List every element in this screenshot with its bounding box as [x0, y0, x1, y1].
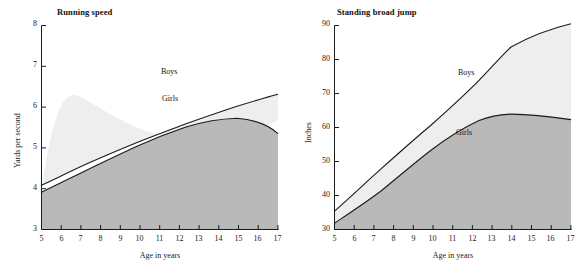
x-tick-standing-broad-jump-11: 16	[542, 234, 559, 243]
y-ticks-standing-broad-jump	[335, 26, 340, 230]
y-tick-running-speed-0: 3	[23, 224, 37, 233]
cut-off-caption	[0, 265, 586, 269]
x-tick-running-speed-1: 6	[53, 234, 70, 243]
y-tick-standing-broad-jump-4: 70	[309, 88, 330, 97]
x-tick-running-speed-3: 8	[92, 234, 109, 243]
chart-panel-running-speed: Running speed Yards per second Age in ye…	[0, 0, 293, 269]
y-tick-running-speed-3: 6	[23, 101, 37, 110]
series-label-boys-standing-broad-jump: Boys	[458, 68, 474, 77]
figure-two-charts: Running speed Yards per second Age in ye…	[0, 0, 586, 269]
x-tick-running-speed-6: 11	[151, 234, 168, 243]
y-tick-standing-broad-jump-2: 50	[309, 156, 330, 165]
y-tick-standing-broad-jump-5: 80	[309, 54, 330, 63]
series-label-girls-running-speed: Girls	[162, 94, 178, 103]
x-tick-running-speed-12: 17	[269, 234, 286, 243]
x-tick-running-speed-9: 14	[210, 234, 227, 243]
x-tick-running-speed-2: 7	[72, 234, 89, 243]
y-tick-standing-broad-jump-3: 60	[309, 122, 330, 131]
x-tick-running-speed-4: 9	[112, 234, 129, 243]
y-tick-running-speed-1: 4	[23, 183, 37, 192]
series-label-girls-standing-broad-jump: Girls	[456, 128, 472, 137]
x-tick-standing-broad-jump-8: 13	[483, 234, 500, 243]
x-tick-standing-broad-jump-1: 6	[346, 234, 363, 243]
x-tick-standing-broad-jump-0: 5	[326, 234, 343, 243]
x-tick-running-speed-0: 5	[33, 234, 50, 243]
x-tick-standing-broad-jump-5: 10	[424, 234, 441, 243]
x-tick-standing-broad-jump-9: 14	[503, 234, 520, 243]
x-tick-running-speed-5: 10	[131, 234, 148, 243]
x-tick-standing-broad-jump-7: 12	[464, 234, 481, 243]
x-tick-standing-broad-jump-10: 15	[523, 234, 540, 243]
x-tick-running-speed-8: 13	[190, 234, 207, 243]
x-tick-running-speed-11: 16	[249, 234, 266, 243]
y-tick-running-speed-5: 8	[23, 19, 37, 28]
x-tick-standing-broad-jump-3: 8	[385, 234, 402, 243]
x-tick-standing-broad-jump-2: 7	[365, 234, 382, 243]
x-tick-standing-broad-jump-6: 11	[444, 234, 461, 243]
x-tick-running-speed-7: 12	[171, 234, 188, 243]
y-tick-standing-broad-jump-6: 90	[309, 19, 330, 28]
plot-area-running-speed	[0, 0, 293, 269]
x-tick-running-speed-10: 15	[230, 234, 247, 243]
y-tick-standing-broad-jump-0: 30	[309, 224, 330, 233]
y-tick-running-speed-2: 5	[23, 142, 37, 151]
x-tick-standing-broad-jump-12: 17	[562, 234, 579, 243]
y-tick-standing-broad-jump-1: 40	[309, 190, 330, 199]
series-label-boys-running-speed: Boys	[161, 67, 177, 76]
plot-area-standing-broad-jump	[293, 0, 586, 269]
chart-panel-standing-broad-jump: Standing broad jump Inches Age in years	[293, 0, 586, 269]
y-tick-running-speed-4: 7	[23, 60, 37, 69]
x-tick-standing-broad-jump-4: 9	[405, 234, 422, 243]
